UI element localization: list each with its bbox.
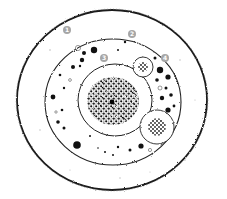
vesicle-large	[140, 110, 174, 144]
vesicle-small	[133, 57, 153, 77]
label-3-text: 3	[102, 54, 106, 61]
cell-diagram: 1 2 3 4	[0, 0, 227, 199]
label-4-text: 4	[163, 54, 167, 61]
label-3: 3	[100, 54, 108, 62]
label-2-text: 2	[130, 30, 134, 37]
label-1-text: 1	[65, 26, 69, 33]
label-1: 1	[63, 26, 71, 34]
label-2: 2	[128, 30, 136, 38]
label-4: 4	[161, 54, 169, 62]
